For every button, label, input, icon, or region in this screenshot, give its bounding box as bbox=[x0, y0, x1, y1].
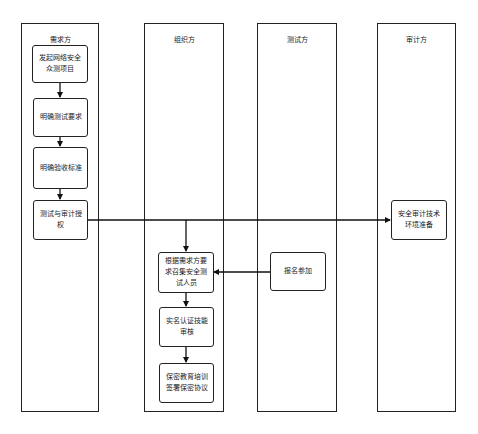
lane-tester: 测试方 bbox=[257, 23, 337, 412]
node-signup: 报名参加 bbox=[270, 252, 326, 291]
lane-title-auditor: 审计方 bbox=[378, 34, 455, 44]
lane-title-demand: 需求方 bbox=[22, 34, 98, 44]
lane-title-organizer: 组织方 bbox=[145, 34, 223, 44]
node-recruit-testers: 根据需求方要求召集安全测试人员 bbox=[158, 252, 214, 293]
lane-organizer: 组织方 bbox=[144, 23, 224, 412]
node-define-acceptance-criteria: 明确验收标准 bbox=[33, 147, 88, 189]
node-test-audit-authorization: 测试与审计授权 bbox=[33, 200, 88, 240]
node-confidentiality-training-nda: 保密教育培训签署保密协议 bbox=[159, 363, 214, 403]
node-launch-project: 发起网络安全众测项目 bbox=[32, 45, 88, 83]
node-identity-skill-verification: 实名认证技能审核 bbox=[159, 307, 214, 347]
node-define-test-requirements: 明确测试要求 bbox=[33, 98, 88, 137]
lane-title-tester: 测试方 bbox=[258, 34, 336, 44]
node-audit-environment-prep: 安全审计技术环境准备 bbox=[391, 200, 447, 240]
